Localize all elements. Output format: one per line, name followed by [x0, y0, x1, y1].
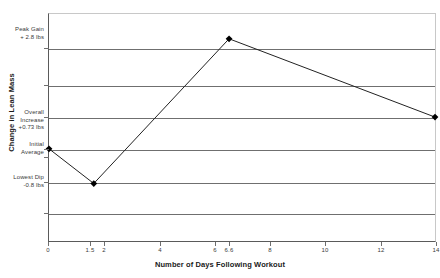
x-tick-label-4: 4	[158, 247, 162, 253]
annotation-overall-line-3: +0.73 lbs	[19, 124, 44, 132]
x-tick-12	[381, 242, 382, 246]
x-tick-label-12: 12	[377, 247, 384, 253]
annotation-peak-gain-line-2: + 2.8 lbs	[15, 34, 44, 42]
x-tick-6.6	[229, 242, 230, 246]
x-axis-title: Number of Days Following Workout	[0, 260, 440, 269]
x-tick-8	[270, 242, 271, 246]
x-tick-1.5	[90, 242, 91, 246]
y-tick-2.1	[44, 85, 49, 86]
x-tick-0	[48, 242, 49, 246]
x-tick-label-10: 10	[321, 247, 328, 253]
plot-area	[48, 13, 436, 242]
x-tick-label-14: 14	[432, 247, 439, 253]
y-tick-1.4	[44, 117, 49, 118]
y-tick-2.8	[44, 48, 49, 49]
x-tick-label-1.5: 1.5	[86, 247, 95, 253]
annotation-overall-line-1: Overall	[19, 109, 44, 117]
annotation-lowest-dip: Lowest Dip -0.8 lbs	[13, 174, 44, 189]
x-tick-6	[215, 242, 216, 246]
annotation-peak-gain-line-1: Peak Gain	[15, 26, 44, 34]
x-tick-14	[436, 242, 437, 246]
x-tick-label-6.6: 6.6	[225, 247, 234, 253]
x-tick-10	[325, 242, 326, 246]
annotation-peak-gain: Peak Gain + 2.8 lbs	[15, 26, 44, 41]
x-tick-label-0: 0	[46, 247, 50, 253]
annotation-initial-line-1: Initial	[21, 141, 44, 149]
annotation-overall-line-2: Increase	[19, 117, 44, 125]
annotation-lowest-dip-line-1: Lowest Dip	[13, 174, 44, 182]
x-tick-2	[104, 242, 105, 246]
y-tick-0.73	[44, 149, 49, 150]
chart-screenshot: Peak Gain + 2.8 lbs Overall Increase +0.…	[0, 0, 440, 278]
y-tick--1.6	[44, 213, 49, 214]
y-axis-title: Change in Lean Mass	[7, 48, 16, 178]
x-tick-label-2: 2	[102, 247, 106, 253]
annotation-overall-increase: Overall Increase +0.73 lbs	[19, 109, 44, 132]
x-tick-label-6: 6	[213, 247, 217, 253]
x-tick-label-8: 8	[268, 247, 272, 253]
annotation-initial-line-2: Average	[21, 149, 44, 157]
marker-point-14	[432, 114, 439, 121]
data-series-lean-mass	[49, 14, 435, 241]
x-tick-4	[160, 242, 161, 246]
series-line	[49, 39, 435, 184]
y-tick--0.8	[44, 182, 49, 183]
y-tick-0	[44, 157, 49, 158]
series-markers	[46, 35, 439, 186]
annotation-initial-average: Initial Average	[21, 141, 44, 156]
annotation-lowest-dip-line-2: -0.8 lbs	[13, 182, 44, 190]
